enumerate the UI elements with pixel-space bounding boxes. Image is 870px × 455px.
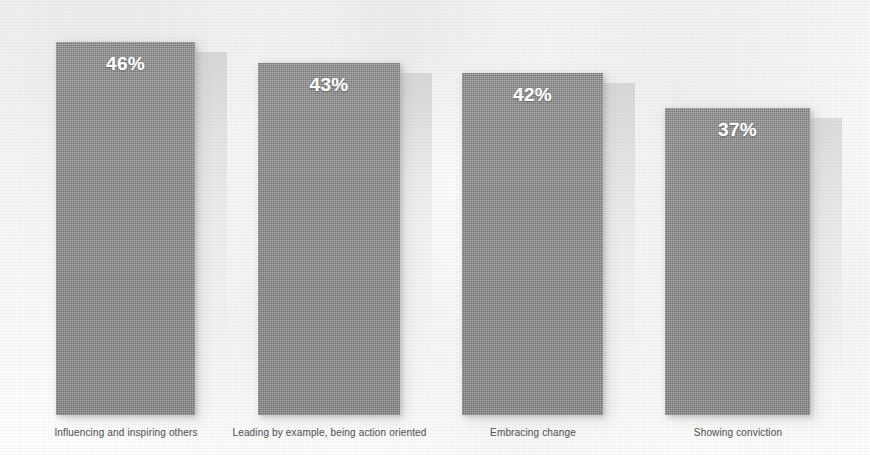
bar-group-4: 37% [665, 108, 810, 415]
bar-group-2: 43% [258, 63, 400, 415]
bar-shadow-3 [601, 83, 635, 420]
bar-value-label-4: 37% [665, 119, 810, 141]
bar-value-label-2: 43% [258, 74, 400, 96]
bar-shadow-2 [398, 73, 432, 420]
bar-chart-figure: 46% Influencing and inspiring others 43%… [0, 0, 870, 455]
category-label-2: Leading by example, being action oriente… [232, 427, 427, 439]
category-label-3: Embracing change [433, 427, 633, 439]
category-label-1: Influencing and inspiring others [26, 427, 226, 439]
category-label-4: Showing conviction [638, 427, 838, 439]
bar-rect-3[interactable] [462, 73, 603, 415]
bar-rect-1[interactable] [56, 42, 195, 415]
bar-group-3: 42% [462, 73, 603, 415]
bar-rect-4[interactable] [665, 108, 810, 415]
bar-shadow-1 [193, 52, 227, 420]
bar-value-label-1: 46% [56, 53, 195, 75]
bar-shadow-4 [808, 118, 842, 420]
bar-group-1: 46% [56, 42, 195, 415]
bar-rect-2[interactable] [258, 63, 400, 415]
plot-area: 46% Influencing and inspiring others 43%… [0, 0, 870, 455]
bar-value-label-3: 42% [462, 84, 603, 106]
